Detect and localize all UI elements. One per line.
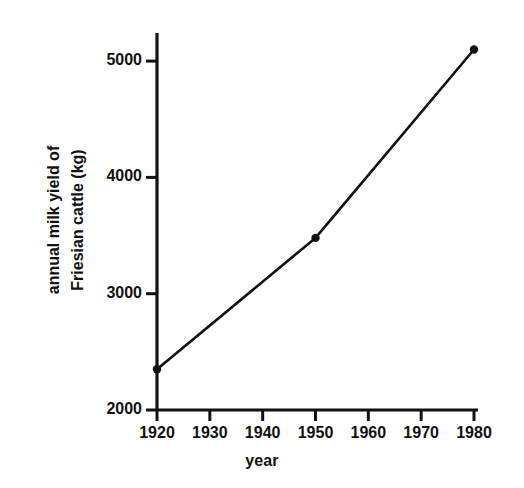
x-axis-tick-label: 1920 xyxy=(127,424,187,442)
x-axis-title: year xyxy=(0,452,524,470)
x-axis-tick-label: 1940 xyxy=(233,424,293,442)
data-point-marker xyxy=(470,45,478,53)
y-axis-tick-label: 2000 xyxy=(82,400,142,418)
x-axis-tick-label: 1970 xyxy=(391,424,451,442)
x-axis-tick-label: 1950 xyxy=(286,424,346,442)
data-point-marker xyxy=(311,234,319,242)
y-axis-title: annual milk yield of Friesian cattle (kg… xyxy=(24,110,110,330)
y-axis-title-line-2: Friesian cattle (kg) xyxy=(68,110,288,330)
x-axis-tick-label: 1960 xyxy=(338,424,398,442)
y-axis-tick-label: 5000 xyxy=(82,51,142,69)
x-axis-tick-label: 1930 xyxy=(180,424,240,442)
line-chart: 2000300040005000 19201930194019501960197… xyxy=(0,0,524,488)
data-point-marker xyxy=(153,365,161,373)
x-axis-ticks xyxy=(157,410,474,421)
x-axis-tick-label: 1980 xyxy=(444,424,504,442)
